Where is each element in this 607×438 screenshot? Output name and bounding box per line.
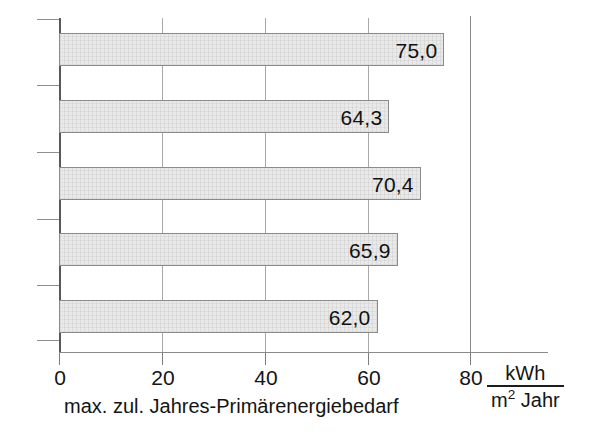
y-axis-tick-4 xyxy=(37,285,59,286)
bar-series-0: 75,0 xyxy=(59,33,444,66)
unit-denominator-rest: Jahr xyxy=(521,389,560,411)
x-axis-tick-40 xyxy=(265,353,266,365)
bar-value-label: 62,0 xyxy=(329,306,371,327)
unit-denominator-exponent: 2 xyxy=(508,387,516,402)
bar-row: 64,3 xyxy=(59,100,470,133)
unit-numerator: kWh xyxy=(487,363,564,385)
bar-series-4: 62,0 xyxy=(59,300,378,333)
bar-value-label: 64,3 xyxy=(341,106,383,127)
bar-series-3: 65,9 xyxy=(59,233,398,266)
bar-value-label: 70,4 xyxy=(372,173,414,194)
y-axis-tick-1 xyxy=(37,85,59,86)
bar-chart: 75,0 64,3 70,4 65,9 62,0 xyxy=(0,0,607,438)
gridline-80 xyxy=(470,16,471,352)
x-tick-label-80: 80 xyxy=(459,367,482,388)
bar-series-2: 70,4 xyxy=(59,167,421,200)
x-tick-label-0: 0 xyxy=(54,367,66,388)
bar-value-label: 75,0 xyxy=(396,39,438,60)
x-axis-line xyxy=(59,352,548,353)
unit-fraction: kWh m2 Jahr xyxy=(487,363,564,410)
x-tick-label-20: 20 xyxy=(151,367,174,388)
plot-area: 75,0 64,3 70,4 65,9 62,0 xyxy=(59,18,470,352)
x-axis-tick-80 xyxy=(470,353,471,365)
bar-row: 70,4 xyxy=(59,167,470,200)
x-axis-tick-20 xyxy=(162,353,163,365)
unit-denominator-base: m xyxy=(491,389,508,411)
x-tick-label-40: 40 xyxy=(254,367,277,388)
y-axis-tick-2 xyxy=(37,152,59,153)
x-axis-tick-60 xyxy=(368,353,369,365)
y-axis-tick-3 xyxy=(37,219,59,220)
unit-denominator: m2 Jahr xyxy=(487,387,564,410)
x-tick-label-60: 60 xyxy=(357,367,380,388)
bar-row: 75,0 xyxy=(59,33,470,66)
bar-row: 62,0 xyxy=(59,300,470,333)
y-axis-tick-0 xyxy=(37,19,59,20)
x-axis-tick-0 xyxy=(59,353,60,365)
x-axis-caption: max. zul. Jahres-Primärenergiebedarf xyxy=(64,396,399,416)
bar-row: 65,9 xyxy=(59,233,470,266)
y-axis-tick-5 xyxy=(37,340,59,341)
bar-value-label: 65,9 xyxy=(349,239,391,260)
bar-series-1: 64,3 xyxy=(59,100,389,133)
